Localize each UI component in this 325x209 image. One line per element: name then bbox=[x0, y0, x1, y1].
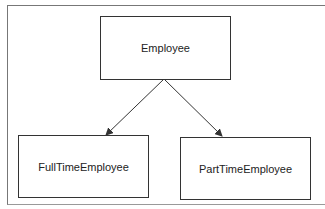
node-fulltime-employee: FullTimeEmployee bbox=[18, 135, 149, 198]
node-label: PartTimeEmployee bbox=[199, 163, 292, 175]
node-parttime-employee: PartTimeEmployee bbox=[180, 137, 311, 200]
node-label: Employee bbox=[141, 42, 190, 54]
node-employee: Employee bbox=[100, 16, 231, 80]
arrow-employee-to-fulltime bbox=[106, 79, 164, 135]
node-label: FullTimeEmployee bbox=[38, 161, 129, 173]
arrow-employee-to-parttime bbox=[164, 79, 222, 136]
